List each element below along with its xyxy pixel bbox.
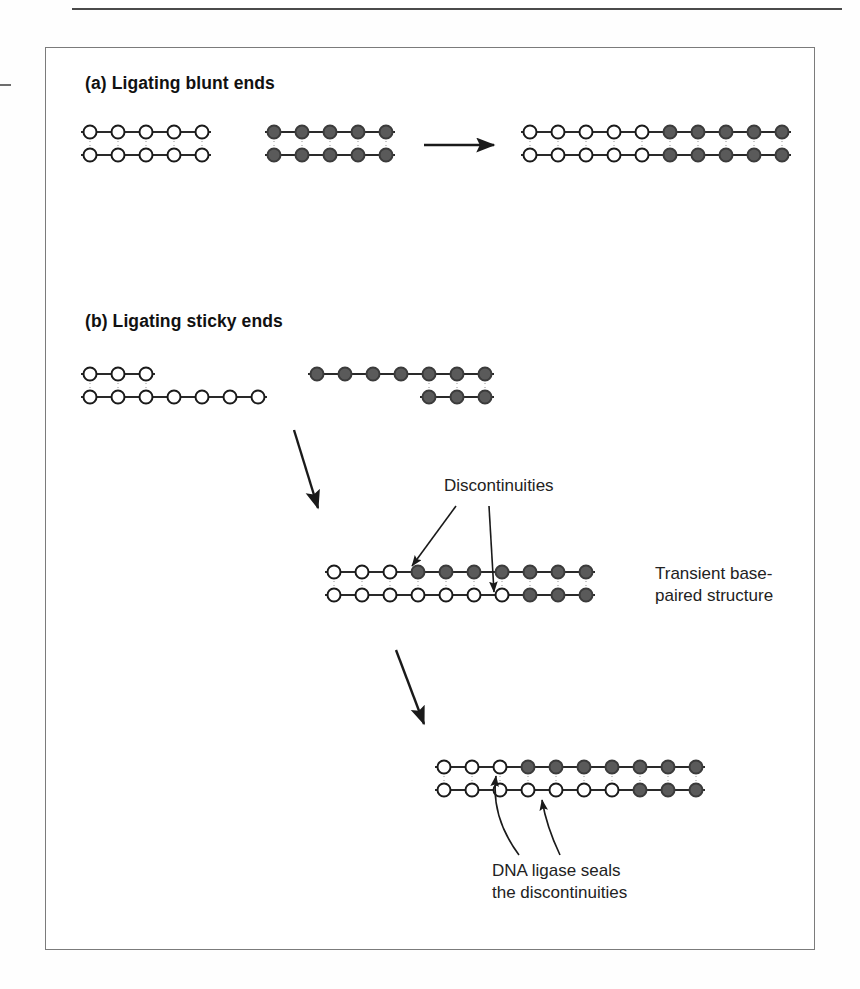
nucleotide-open-circle	[196, 391, 209, 404]
nucleotide-open-circle	[552, 126, 565, 139]
hydrogen-bond-group	[274, 141, 386, 146]
nucleotide-filled-circle	[690, 784, 703, 797]
nucleotide-open-circle	[578, 784, 591, 797]
dna-bottom-strand	[325, 589, 595, 602]
nucleotide-open-circle	[252, 391, 265, 404]
panel-a-reactant-open-duplex	[78, 118, 238, 178]
nucleotide-filled-circle	[748, 149, 761, 162]
nucleotide-open-circle	[168, 391, 181, 404]
nucleotide-filled-circle	[776, 126, 789, 139]
dna-ligase-caption-line-2: the discontinuities	[492, 882, 627, 904]
panel-a-reactant-filled-duplex	[262, 118, 422, 178]
nucleotide-filled-circle	[339, 368, 352, 381]
nucleotide-open-circle	[140, 391, 153, 404]
panel-a-title: (a) Ligating blunt ends	[85, 73, 275, 94]
hydrogen-bond-group	[429, 383, 485, 388]
nucleotide-open-circle	[524, 126, 537, 139]
nucleotide-filled-circle	[296, 126, 309, 139]
nucleotide-filled-circle	[550, 761, 563, 774]
nucleotide-open-circle	[496, 589, 509, 602]
nucleotide-open-circle	[440, 589, 453, 602]
nucleotide-open-circle	[140, 126, 153, 139]
nucleotide-filled-circle	[692, 149, 705, 162]
nucleotide-filled-circle	[412, 566, 425, 579]
nucleotide-open-circle	[552, 149, 565, 162]
nucleotide-open-circle	[494, 784, 507, 797]
nucleotide-filled-circle	[662, 784, 675, 797]
dna-top-strand	[265, 126, 395, 139]
nucleotide-open-circle	[140, 368, 153, 381]
nucleotide-open-circle	[168, 149, 181, 162]
nucleotide-open-circle	[466, 761, 479, 774]
nucleotide-open-circle	[84, 368, 97, 381]
nucleotide-filled-circle	[296, 149, 309, 162]
discontinuities-label: Discontinuities	[444, 475, 554, 497]
nucleotide-open-circle	[494, 761, 507, 774]
nucleotide-open-circle	[84, 149, 97, 162]
nucleotide-filled-circle	[748, 126, 761, 139]
nucleotide-filled-circle	[268, 126, 281, 139]
dna-bottom-strand	[81, 391, 267, 404]
nucleotide-filled-circle	[468, 566, 481, 579]
dna-ligase-caption: DNA ligase seals the discontinuities	[492, 860, 627, 904]
dna-bottom-strand	[265, 149, 395, 162]
nucleotide-filled-circle	[720, 126, 733, 139]
nucleotide-filled-circle	[380, 149, 393, 162]
hydrogen-bond-group	[444, 776, 696, 781]
nucleotide-open-circle	[438, 761, 451, 774]
dna-bottom-strand	[435, 784, 705, 797]
nucleotide-filled-circle	[776, 149, 789, 162]
nucleotide-filled-circle	[324, 149, 337, 162]
nucleotide-open-circle	[466, 784, 479, 797]
nucleotide-filled-circle	[395, 368, 408, 381]
nucleotide-filled-circle	[662, 761, 675, 774]
panel-a-product-duplex	[518, 118, 818, 178]
nucleotide-filled-circle	[580, 566, 593, 579]
nucleotide-open-circle	[84, 126, 97, 139]
figure-frame-border	[45, 47, 815, 950]
hydrogen-bond-group	[530, 141, 782, 146]
nucleotide-open-circle	[196, 126, 209, 139]
nucleotide-open-circle	[224, 391, 237, 404]
hydrogen-bond-group	[334, 581, 586, 586]
transient-structure-label-line-2: paired structure	[655, 585, 773, 607]
nucleotide-open-circle	[84, 391, 97, 404]
transient-structure-label: Transient base- paired structure	[655, 563, 773, 607]
dna-top-strand	[308, 368, 494, 381]
nucleotide-open-circle	[608, 126, 621, 139]
nucleotide-filled-circle	[311, 368, 324, 381]
panel-b-sealed-duplex	[432, 753, 752, 813]
nucleotide-filled-circle	[720, 149, 733, 162]
dna-ligase-caption-line-1: DNA ligase seals	[492, 860, 627, 882]
nucleotide-open-circle	[384, 566, 397, 579]
nucleotide-open-circle	[606, 784, 619, 797]
nucleotide-filled-circle	[352, 126, 365, 139]
nucleotide-open-circle	[608, 149, 621, 162]
panel-b-transient-duplex	[322, 558, 642, 618]
panel-b-title: (b) Ligating sticky ends	[85, 311, 283, 332]
hydrogen-bond-group	[90, 141, 202, 146]
panel-b-reactant-filled-sticky	[305, 360, 525, 420]
nucleotide-open-circle	[328, 589, 341, 602]
nucleotide-open-circle	[438, 784, 451, 797]
nucleotide-open-circle	[412, 589, 425, 602]
nucleotide-filled-circle	[479, 391, 492, 404]
nucleotide-filled-circle	[423, 368, 436, 381]
nucleotide-filled-circle	[496, 566, 509, 579]
nucleotide-filled-circle	[423, 391, 436, 404]
nucleotide-filled-circle	[522, 761, 535, 774]
nucleotide-open-circle	[112, 126, 125, 139]
nucleotide-filled-circle	[552, 566, 565, 579]
nucleotide-open-circle	[196, 149, 209, 162]
panel-b-reactant-open-sticky	[78, 360, 298, 420]
dna-top-strand	[81, 368, 155, 381]
dna-bottom-strand	[81, 149, 211, 162]
nucleotide-filled-circle	[524, 589, 537, 602]
page-top-rule	[72, 8, 842, 10]
nucleotide-filled-circle	[634, 784, 647, 797]
nucleotide-filled-circle	[268, 149, 281, 162]
nucleotide-filled-circle	[324, 126, 337, 139]
nucleotide-filled-circle	[580, 589, 593, 602]
nucleotide-open-circle	[550, 784, 563, 797]
nucleotide-open-circle	[636, 149, 649, 162]
